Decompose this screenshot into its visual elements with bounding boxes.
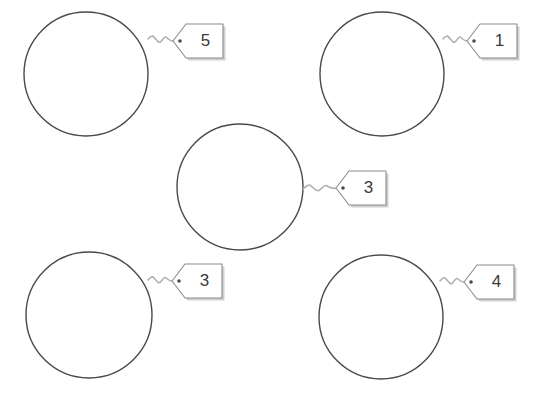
tag-hole-icon-bottom-right — [469, 280, 473, 284]
answer-circle-top-left[interactable] — [24, 12, 148, 136]
tag-hole-icon-bottom-left — [177, 279, 181, 283]
tag-string-top-right — [443, 36, 469, 42]
tag-number-label-center: 3 — [364, 178, 373, 197]
tag-string-top-left — [148, 36, 175, 42]
circles-and-tags-diagram: 51334 — [0, 0, 533, 408]
answer-circle-center[interactable] — [177, 124, 303, 250]
circle-tag-group-center: 3 — [177, 124, 389, 250]
worksheet-canvas: 51334 — [0, 0, 533, 408]
circle-tag-group-bottom-right: 4 — [319, 255, 517, 379]
tag-number-label-top-left: 5 — [201, 31, 210, 50]
answer-circle-bottom-left[interactable] — [26, 252, 152, 378]
tag-string-bottom-right — [440, 278, 466, 284]
tag-number-label-bottom-right: 4 — [492, 272, 501, 291]
tag-string-bottom-left — [148, 277, 174, 283]
tag-string-center — [303, 185, 338, 191]
answer-circle-top-right[interactable] — [320, 12, 444, 136]
circle-tag-group-top-right: 1 — [320, 12, 520, 136]
tag-number-label-top-right: 1 — [495, 31, 504, 50]
answer-circle-bottom-right[interactable] — [319, 255, 443, 379]
circle-tag-group-top-left: 5 — [24, 12, 226, 136]
tag-hole-icon-center — [341, 186, 345, 190]
tag-hole-icon-top-left — [178, 39, 182, 43]
circle-tag-group-bottom-left: 3 — [26, 252, 225, 378]
tag-number-label-bottom-left: 3 — [200, 271, 209, 290]
tag-hole-icon-top-right — [472, 39, 476, 43]
